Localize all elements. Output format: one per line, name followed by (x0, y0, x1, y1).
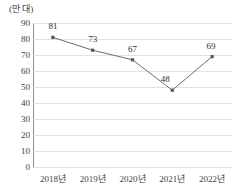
x-axis-tick-label: 2019년 (80, 172, 106, 185)
y-axis-tick-label: 70 (2, 50, 30, 60)
y-axis-tick-label: 50 (2, 82, 30, 92)
data-point-marker (91, 49, 94, 52)
y-axis-tick-label: 0 (2, 162, 30, 172)
data-point-label: 67 (128, 44, 137, 54)
x-axis-tick-label: 2022년 (199, 172, 225, 185)
y-axis-tick-label: 80 (2, 34, 30, 44)
data-point-label: 73 (88, 34, 97, 44)
x-axis-tick-label: 2018년 (40, 172, 66, 185)
plot-area: 8173674869 (33, 23, 232, 167)
y-axis-tick-label: 10 (2, 146, 30, 156)
data-point-label: 81 (48, 21, 57, 31)
y-axis-tick-labels: 9080706050403020100 (0, 23, 30, 167)
data-point-label: 48 (161, 74, 170, 84)
data-point-marker (51, 36, 54, 39)
y-axis-tick-label: 90 (2, 18, 30, 28)
data-point-marker (171, 89, 174, 92)
data-point-label: 69 (207, 41, 216, 51)
y-axis-tick-label: 40 (2, 98, 30, 108)
gridline (33, 167, 232, 168)
x-axis-tick-labels: 2018년2019년2020년2021년2022년 (33, 170, 232, 190)
data-point-marker (131, 58, 134, 61)
x-axis-tick-label: 2021년 (159, 172, 185, 185)
y-axis-tick-label: 20 (2, 130, 30, 140)
x-axis-tick-label: 2020년 (120, 172, 146, 185)
y-axis-tick-label: 30 (2, 114, 30, 124)
line-chart: (만 대) 9080706050403020100 8173674869 201… (0, 0, 237, 192)
data-point-marker (211, 55, 214, 58)
unit-label: (만 대) (9, 2, 33, 15)
y-axis-tick-label: 60 (2, 66, 30, 76)
